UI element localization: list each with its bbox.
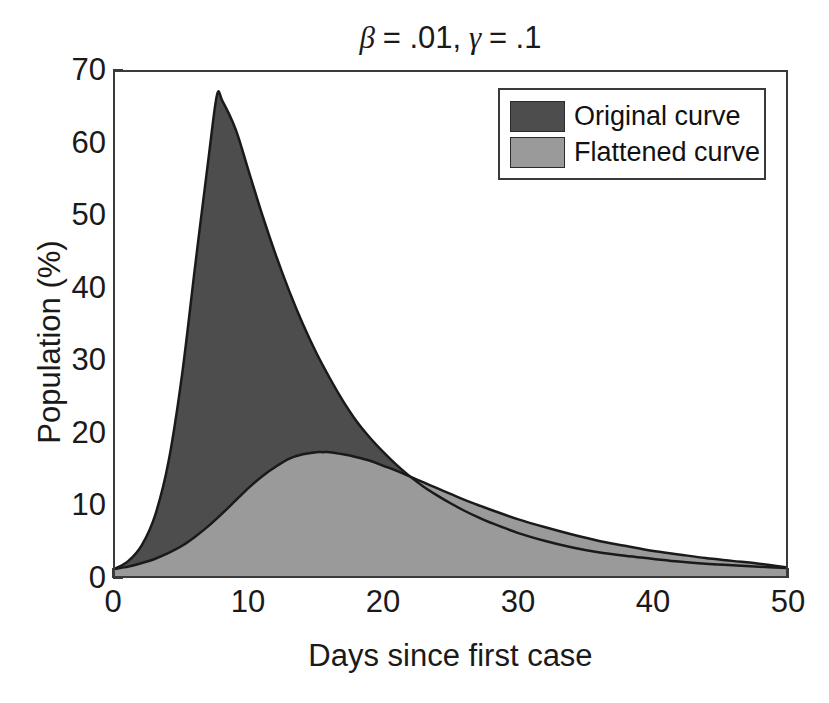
y-tick-label-70: 70 bbox=[16, 54, 106, 85]
y-tick-label-30: 30 bbox=[16, 344, 106, 375]
title-beta-value: = .01, bbox=[383, 20, 461, 55]
legend: Original curveFlattened curve bbox=[498, 88, 766, 180]
x-tick-label-20: 20 bbox=[338, 586, 428, 617]
y-tick-label-50: 50 bbox=[16, 199, 106, 230]
y-tick-label-20: 20 bbox=[16, 417, 106, 448]
x-tick-label-50: 50 bbox=[743, 586, 829, 617]
chart-title: β = .01, γ = .1 bbox=[113, 20, 788, 56]
legend-label-1: Original curve bbox=[574, 103, 741, 130]
y-tick-label-10: 10 bbox=[16, 489, 106, 520]
x-tick-label-10: 10 bbox=[203, 586, 293, 617]
figure: β = .01, γ = .1 Population (%) Days sinc… bbox=[0, 0, 829, 703]
legend-swatch-icon-1 bbox=[510, 101, 565, 132]
y-tick-label-60: 60 bbox=[16, 127, 106, 158]
legend-item-2[interactable]: Flattened curve bbox=[510, 134, 754, 170]
x-axis-label: Days since first case bbox=[113, 638, 788, 674]
x-tick-label-0: 0 bbox=[68, 586, 158, 617]
legend-label-2: Flattened curve bbox=[574, 139, 760, 166]
y-tick-label-40: 40 bbox=[16, 272, 106, 303]
x-tick-label-30: 30 bbox=[473, 586, 563, 617]
legend-swatch-icon-2 bbox=[510, 137, 565, 168]
x-tick-label-40: 40 bbox=[608, 586, 698, 617]
title-beta-symbol: β bbox=[360, 20, 375, 55]
title-gamma-value: = .1 bbox=[489, 20, 542, 55]
legend-item-1[interactable]: Original curve bbox=[510, 98, 754, 134]
title-gamma-symbol: γ bbox=[469, 20, 481, 55]
